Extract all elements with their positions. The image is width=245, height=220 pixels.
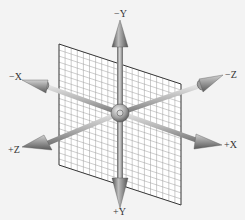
cone-pos-x: [194, 134, 222, 149]
cone-pos-z: [22, 135, 52, 150]
axes-canvas: [0, 0, 245, 220]
cone-neg-z: [199, 75, 223, 92]
label-neg-x: −X: [9, 72, 22, 82]
label-neg-z: −Z: [225, 70, 237, 80]
axes-diagram: −Y +Y −X +X −Z +Z: [0, 0, 245, 220]
cone-neg-y: [112, 20, 128, 47]
origin-hub: [111, 104, 129, 122]
cone-neg-x: [22, 80, 48, 93]
cone-pos-y: [112, 178, 128, 208]
label-neg-y: −Y: [114, 9, 127, 19]
label-pos-z: +Z: [8, 145, 20, 155]
label-pos-y: +Y: [113, 207, 126, 217]
label-pos-x: +X: [224, 140, 237, 150]
